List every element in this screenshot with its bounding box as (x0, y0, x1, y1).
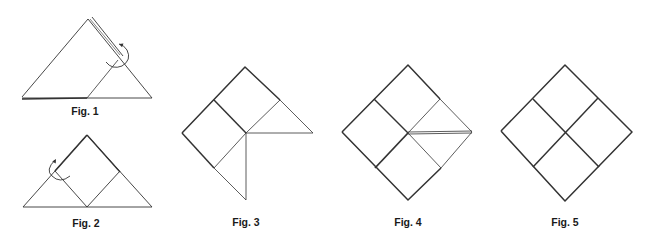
fold-line (87, 60, 118, 98)
fold-line (22, 98, 87, 99)
fold-line (342, 132, 441, 200)
figure-3 (182, 67, 313, 200)
fold-line (182, 67, 280, 133)
fold-line (408, 133, 441, 168)
fold-line (408, 133, 472, 134)
fold-line (214, 100, 246, 133)
fold-line (87, 135, 120, 172)
arrowhead-icon (118, 42, 123, 47)
figure-4-caption: Fig. 4 (394, 216, 421, 228)
fold-line (246, 100, 313, 133)
fold-line (375, 133, 408, 168)
fold-line (22, 19, 152, 98)
figure-2-caption: Fig. 2 (72, 217, 99, 229)
figure-2 (23, 135, 152, 207)
figure-5 (501, 65, 632, 201)
fold-line (246, 100, 280, 133)
fold-direction-arrow-icon (49, 160, 70, 180)
fold-line (408, 131, 472, 132)
figure-1 (22, 17, 152, 99)
fold-line (55, 135, 87, 171)
fold-line (342, 65, 440, 132)
fold-line (182, 133, 214, 168)
figure-5-caption: Fig. 5 (551, 216, 578, 228)
fold-line (55, 171, 120, 207)
fold-line (408, 99, 440, 133)
diagram-canvas (0, 0, 652, 237)
figure-3-caption: Fig. 3 (232, 216, 259, 228)
fold-line (214, 133, 246, 168)
figure-1-caption: Fig. 1 (71, 105, 98, 117)
figure-4 (342, 65, 472, 200)
fold-line (23, 135, 152, 207)
fold-line (90, 19, 120, 55)
fold-line (214, 133, 246, 200)
fold-line (374, 99, 408, 133)
fold-line (92, 17, 123, 56)
